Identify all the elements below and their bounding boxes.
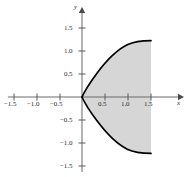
y-tick-label-pos-0-5: 0.5 xyxy=(64,70,72,78)
x-tick-label-neg-1-0: −1.0 xyxy=(27,100,39,108)
y-tick-label-neg-0-5: −0.5 xyxy=(60,116,72,124)
parabola-region-figure: −1.5 −1.0 −0.5 0.5 1.0 1.5 1.5 1.0 0.5 −… xyxy=(0,0,190,177)
x-tick-label-pos-0-5: 0.5 xyxy=(98,100,106,108)
x-tick-label-pos-1-0: 1.0 xyxy=(121,100,129,108)
y-tick-label-neg-1-5: −1.5 xyxy=(60,162,72,170)
y-axis-arrow xyxy=(79,7,85,13)
y-tick-label-neg-1-0: −1.0 xyxy=(60,139,72,147)
y-tick-label-pos-1-5: 1.5 xyxy=(64,24,72,32)
x-tick-label-neg-0-5: −0.5 xyxy=(50,100,62,108)
x-tick-label-pos-1-5: 1.5 xyxy=(144,100,152,108)
y-axis-label: y xyxy=(74,3,77,11)
x-axis-label: x xyxy=(177,99,180,107)
x-tick-label-neg-1-5: −1.5 xyxy=(4,100,16,108)
plot-canvas xyxy=(0,0,190,177)
y-tick-label-pos-1-0: 1.0 xyxy=(64,47,72,55)
